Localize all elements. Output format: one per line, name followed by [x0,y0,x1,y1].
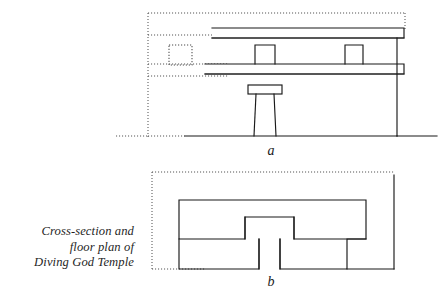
panel-b-label: b [268,274,275,289]
panel-a-label: a [268,143,275,158]
figure-diving-god-temple: a [0,0,443,293]
panel-b-floor-plan: b [152,172,394,289]
column-shaft-right-edge [274,94,276,136]
column-shaft-left-edge [254,94,256,136]
wall-niche-right [345,45,363,64]
lower-roof-beam-fill [205,64,404,74]
figure-caption: Cross-section and floor plan of Diving G… [8,224,134,271]
column-capital-fill [248,85,282,94]
front-left-wall [179,239,259,269]
caption-line-2: floor plan of [8,240,134,256]
caption-line-1: Cross-section and [8,224,134,240]
upper-roof-beam-fill [212,28,404,38]
rear-chamber-outline [179,200,366,239]
panel-a-cross-section: a [116,13,437,158]
wall-niche-left [255,45,275,64]
projected-opening-dotted-square [169,45,192,65]
front-right-wall [280,239,366,269]
caption-line-3: Diving God Temple [8,255,134,271]
